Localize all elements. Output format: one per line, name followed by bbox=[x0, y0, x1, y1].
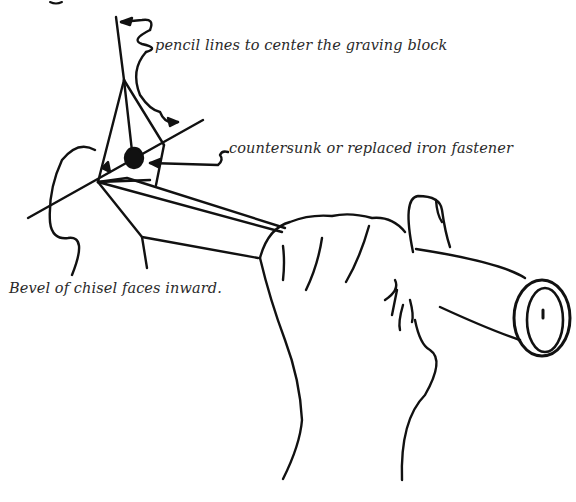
hand bbox=[260, 196, 450, 480]
fastener bbox=[102, 148, 228, 172]
annotation-fastener: countersunk or replaced iron fastener bbox=[229, 140, 513, 156]
cropped-glyph bbox=[50, 2, 62, 4]
annotation-bevel: Bevel of chisel faces inward. bbox=[9, 280, 222, 296]
chisel-illustration bbox=[0, 0, 576, 502]
illustration: pencil lines to center the graving block… bbox=[0, 0, 576, 502]
chisel-blade bbox=[98, 178, 285, 268]
chisel-handle bbox=[416, 249, 570, 356]
pencil-leader-arrow bbox=[121, 18, 178, 126]
annotation-pencil-lines: pencil lines to center the graving block bbox=[155, 37, 447, 53]
surface-outline bbox=[50, 147, 95, 275]
